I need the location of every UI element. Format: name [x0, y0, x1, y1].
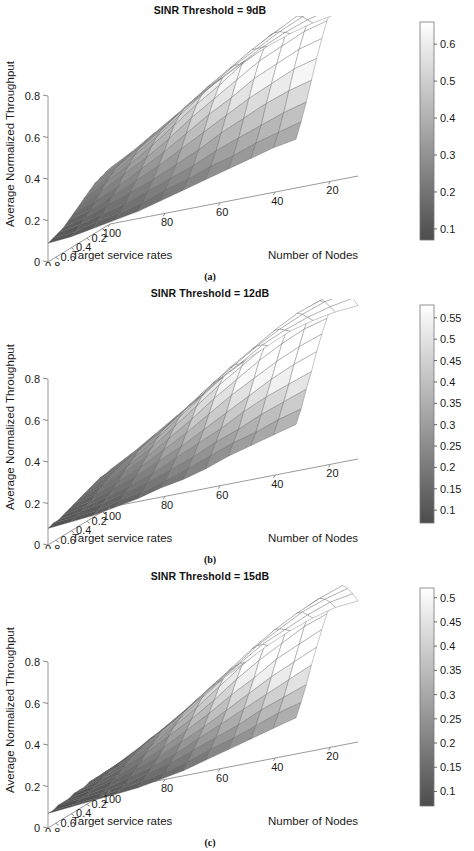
svg-text:0.3: 0.3	[440, 419, 455, 431]
svg-text:0.6: 0.6	[440, 38, 455, 50]
panel-caption: (b)	[0, 554, 420, 565]
panel-c: SINR Threshold = 15dB 00.20.40.60.8Avera…	[0, 566, 474, 849]
svg-text:0.15: 0.15	[440, 483, 461, 495]
svg-text:0.2: 0.2	[25, 781, 40, 793]
svg-text:0.8: 0.8	[25, 656, 40, 668]
panel-b: SINR Threshold = 12dB 00.20.40.60.8Avera…	[0, 283, 474, 566]
svg-text:0.2: 0.2	[440, 737, 455, 749]
svg-text:0.2: 0.2	[440, 186, 455, 198]
colorbar-a: 0.10.20.30.40.50.6	[408, 16, 474, 256]
svg-text:40: 40	[271, 478, 283, 490]
panel-caption: (a)	[0, 271, 420, 282]
svg-text:0.4: 0.4	[25, 739, 40, 751]
svg-text:0.55: 0.55	[440, 312, 461, 324]
svg-text:0.35: 0.35	[440, 397, 461, 409]
z-axis-label: Average Normalized Throughput	[4, 626, 16, 793]
svg-text:0.5: 0.5	[440, 75, 455, 87]
svg-text:60: 60	[216, 206, 228, 218]
panel-title: SINR Threshold = 12dB	[0, 287, 420, 299]
svg-text:80: 80	[161, 782, 173, 794]
y-axis-label: Number of Nodes	[268, 532, 358, 544]
svg-text:0.8: 0.8	[45, 260, 60, 266]
z-axis-label: Average Normalized Throughput	[4, 343, 16, 510]
y-axis-label: Number of Nodes	[268, 249, 358, 261]
svg-text:0.4: 0.4	[25, 456, 40, 468]
svg-text:0.1: 0.1	[440, 785, 455, 797]
svg-text:40: 40	[271, 195, 283, 207]
svg-text:80: 80	[161, 216, 173, 228]
surface-mesh	[48, 586, 358, 814]
z-axis-label: Average Normalized Throughput	[4, 60, 16, 227]
svg-text:0.35: 0.35	[440, 664, 461, 676]
svg-text:20: 20	[326, 467, 338, 479]
svg-text:0.3: 0.3	[440, 149, 455, 161]
panel-title: SINR Threshold = 9dB	[0, 4, 420, 16]
svg-text:0.45: 0.45	[440, 355, 461, 367]
colorbar-ticks: 0.10.20.30.40.50.6	[434, 38, 455, 235]
svg-text:0.5: 0.5	[440, 333, 455, 345]
svg-text:20: 20	[326, 184, 338, 196]
panel-caption: (c)	[0, 837, 420, 848]
svg-text:0.45: 0.45	[440, 616, 461, 628]
surface-mesh	[48, 299, 358, 528]
surface-plot-b: 00.20.40.60.8Average Normalized Throughp…	[0, 299, 410, 549]
svg-text:0.25: 0.25	[440, 713, 461, 725]
colorbar-ticks: 0.10.150.20.250.30.350.40.450.5	[434, 592, 461, 798]
svg-text:60: 60	[216, 489, 228, 501]
svg-text:0.4: 0.4	[440, 376, 455, 388]
svg-text:80: 80	[161, 499, 173, 511]
z-axis: 00.20.40.60.8	[25, 656, 48, 832]
svg-text:0.8: 0.8	[25, 373, 40, 385]
svg-text:60: 60	[216, 772, 228, 784]
svg-text:0.6: 0.6	[25, 415, 40, 427]
z-axis: 00.20.40.60.8	[25, 373, 48, 549]
svg-text:0.25: 0.25	[440, 440, 461, 452]
svg-text:0: 0	[34, 822, 40, 832]
svg-text:0.2: 0.2	[25, 215, 40, 227]
svg-text:0: 0	[34, 539, 40, 549]
svg-text:0.6: 0.6	[25, 698, 40, 710]
svg-text:0.1: 0.1	[440, 223, 455, 235]
x-axis-label: Target service rates	[72, 249, 173, 261]
svg-text:40: 40	[271, 761, 283, 773]
colorbar-b: 0.10.150.20.250.30.350.40.450.50.55	[408, 299, 474, 539]
svg-text:0.8: 0.8	[45, 543, 60, 549]
svg-text:100: 100	[103, 227, 121, 239]
svg-text:0.2: 0.2	[25, 498, 40, 510]
y-axis-label: Number of Nodes	[268, 815, 358, 827]
surface-plot-a: 00.20.40.60.8Average Normalized Throughp…	[0, 16, 410, 266]
z-axis: 00.20.40.60.8	[25, 90, 48, 266]
svg-text:20: 20	[326, 750, 338, 762]
panel-a: SINR Threshold = 9dB 00.20.40.60.8Averag…	[0, 0, 474, 283]
svg-text:0.6: 0.6	[25, 132, 40, 144]
svg-text:100: 100	[103, 793, 121, 805]
svg-text:0.4: 0.4	[25, 173, 40, 185]
colorbar-c: 0.10.150.20.250.30.350.40.450.5	[408, 582, 474, 822]
svg-text:0.3: 0.3	[440, 689, 455, 701]
surface-plot-c: 00.20.40.60.8Average Normalized Throughp…	[0, 582, 410, 832]
svg-text:0.2: 0.2	[440, 461, 455, 473]
panel-title: SINR Threshold = 15dB	[0, 570, 420, 582]
svg-text:0.5: 0.5	[440, 592, 455, 604]
figure-container: SINR Threshold = 9dB 00.20.40.60.8Averag…	[0, 0, 474, 851]
svg-text:100: 100	[103, 510, 121, 522]
surface-mesh	[48, 16, 358, 243]
x-axis-label: Target service rates	[72, 815, 173, 827]
svg-text:0.4: 0.4	[440, 112, 455, 124]
colorbar-ticks: 0.10.150.20.250.30.350.40.450.50.55	[434, 312, 461, 516]
svg-text:0.8: 0.8	[45, 826, 60, 832]
svg-text:0: 0	[34, 256, 40, 266]
svg-text:0.15: 0.15	[440, 761, 461, 773]
svg-text:0.1: 0.1	[440, 504, 455, 516]
svg-text:0.4: 0.4	[440, 640, 455, 652]
x-axis-label: Target service rates	[72, 532, 173, 544]
svg-text:0.8: 0.8	[25, 90, 40, 102]
